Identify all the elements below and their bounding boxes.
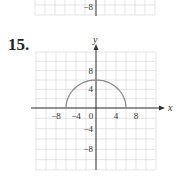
x-tick-label: −4 — [71, 111, 81, 121]
figure: −8 xy−8−404884−4−8 — [0, 0, 176, 180]
tick-label: −8 — [83, 2, 93, 12]
x-axis-arrow-icon — [159, 106, 165, 111]
y-tick-label: −4 — [83, 124, 93, 134]
x-axis-label: x — [167, 102, 173, 113]
x-tick-label: 0 — [89, 111, 94, 121]
x-tick-label: −8 — [51, 111, 61, 121]
y-tick-label: −8 — [83, 144, 93, 154]
previous-graph-fragment: −8 — [35, 0, 155, 16]
y-tick-label: 4 — [89, 84, 94, 94]
x-tick-label: 8 — [134, 111, 139, 121]
x-tick-label: 4 — [114, 111, 119, 121]
y-tick-label: 8 — [89, 66, 94, 76]
semicircle-graph: xy−8−404884−4−8 — [31, 34, 173, 170]
y-axis-label: y — [92, 34, 98, 45]
